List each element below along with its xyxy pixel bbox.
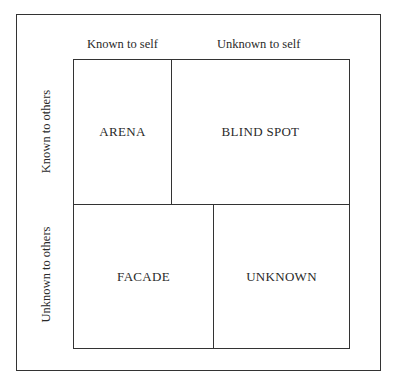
quadrant-unknown: UNKNOWN	[213, 204, 350, 349]
quadrant-arena-label: ARENA	[99, 124, 145, 140]
column-label-unknown-to-self: Unknown to self	[217, 37, 300, 52]
quadrant-facade-label: FACADE	[117, 269, 170, 285]
quadrant-blind-spot-label: BLIND SPOT	[222, 124, 300, 140]
quadrant-arena: ARENA	[73, 59, 172, 205]
row-label-known-to-others: Known to others	[39, 86, 54, 178]
quadrant-unknown-label: UNKNOWN	[246, 269, 317, 285]
quadrant-blind-spot: BLIND SPOT	[171, 59, 350, 205]
quadrant-facade: FACADE	[73, 204, 214, 349]
row-label-unknown-to-others: Unknown to others	[39, 223, 54, 327]
column-label-known-to-self: Known to self	[87, 37, 158, 52]
